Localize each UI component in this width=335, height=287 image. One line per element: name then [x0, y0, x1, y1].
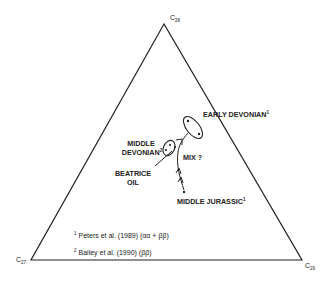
middle-jurassic-label: MIDDLE JURASSIC1 — [177, 197, 246, 206]
reference-2: 2Bailey et al. (1990) (ββ) — [74, 248, 152, 257]
beatrice-label-2: OIL — [127, 178, 140, 187]
ternary-diagram: C28 C27 C29 EARLY DEVONIAN1 MIDDLE DEVON… — [0, 0, 335, 287]
early-devonian-label: EARLY DEVONIAN1 — [203, 110, 270, 119]
mixing-trend-arrow — [176, 133, 188, 193]
reference-1: 1Peters et al. (1989) (αα + ββ) — [74, 231, 169, 240]
mix-label: MIX ? — [183, 153, 202, 162]
vertex-left-label: C27 — [16, 256, 27, 265]
vertex-top-label: C28 — [170, 14, 181, 23]
middle-devonian-label: MIDDLE — [127, 139, 155, 148]
middle-devonian-label-2: DEVONIAN2 — [122, 148, 163, 157]
beatrice-label: BEATRICE — [115, 169, 151, 178]
vertex-right-label: C29 — [305, 262, 316, 271]
